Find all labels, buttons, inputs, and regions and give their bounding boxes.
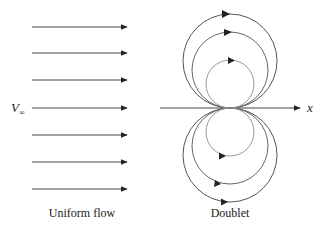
upper-streamline-small (206, 60, 254, 108)
arrow-left-icon (214, 180, 221, 187)
lower-streamline-medium (192, 108, 268, 184)
uniform-flow-caption: Uniform flow (49, 206, 116, 220)
doublet-lower-streamlines (183, 108, 277, 202)
lower-streamline-large (183, 108, 277, 202)
flow-diagram: V∞ Uniform flow x Doublet (0, 0, 328, 230)
upper-streamline-medium (192, 32, 268, 108)
doublet-caption: Doublet (211, 206, 250, 220)
arrow-right-icon (224, 29, 232, 36)
uniform-flow-arrows (32, 27, 127, 189)
arrow-left-icon (219, 153, 226, 160)
doublet-lower-arrows (214, 153, 228, 206)
arrow-right-icon (228, 57, 235, 64)
arrow-left-icon (221, 199, 228, 206)
arrow-right-icon (222, 10, 230, 18)
lower-streamline-small (206, 108, 254, 156)
x-axis-label: x (306, 100, 313, 115)
velocity-subscript: ∞ (19, 108, 25, 117)
velocity-label: V∞ (11, 100, 25, 117)
doublet-upper-arrows (222, 10, 235, 64)
